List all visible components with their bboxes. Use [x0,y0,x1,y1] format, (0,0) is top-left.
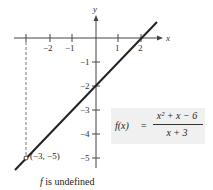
fraction-bar [153,124,203,125]
y-tick-label: −3 [80,106,90,115]
x-tick-label: 2 [138,44,143,53]
y-tick-label: −1 [80,58,90,67]
x-tick-label: −1 [65,44,75,53]
function-line [15,22,157,170]
formula-denominator: x + 3 [151,127,203,138]
caption-text: is undefined [43,176,95,187]
graph [0,0,213,190]
x-tick-label: 1 [115,44,120,53]
formula-box: f(x) = x² + x − 6 x + 3 [111,108,205,144]
y-tick-label: −4 [80,130,90,139]
formula-equals: = [141,120,147,131]
y-axis-arrow-icon [94,15,99,21]
x-axis-arrow-icon [157,36,163,41]
hole-point-label: (−3, −5) [30,151,60,161]
y-tick-label: −5 [80,154,90,163]
caption: f is undefined [40,176,94,187]
hole-marker-icon [24,156,28,160]
x-tick-label: −2 [43,44,53,53]
x-axis-label: x [166,34,170,43]
y-axis-label: y [93,5,97,14]
y-tick-label: −2 [80,82,90,91]
formula-lhs: f(x) [115,120,129,131]
formula-numerator: x² + x − 6 [151,110,203,121]
